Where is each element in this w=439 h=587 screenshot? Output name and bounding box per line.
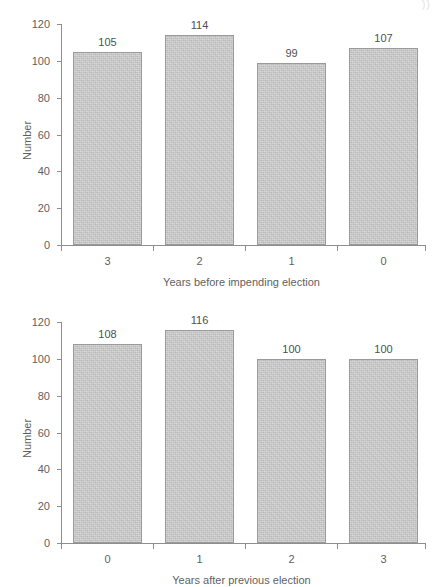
x-tick-label-top-3: 0 <box>349 256 418 267</box>
x-tick-label-top-2: 1 <box>257 256 326 267</box>
y-tick-label-bottom-0: 0 <box>16 538 50 549</box>
x-tick-bottom-0 <box>61 544 62 549</box>
x-axis-line-top <box>61 245 426 246</box>
y-tick-top-120 <box>57 24 62 25</box>
y-axis-title-bottom: Number <box>21 419 33 458</box>
x-tick-top-0 <box>61 246 62 251</box>
bar-value-bottom-1: 116 <box>165 315 234 326</box>
y-tick-bottom-120 <box>57 322 62 323</box>
bar-value-bottom-2: 100 <box>257 344 326 355</box>
y-tick-bottom-80 <box>57 396 62 397</box>
x-tick-label-bottom-3: 3 <box>349 554 418 565</box>
y-tick-label-bottom-120: 120 <box>16 317 50 328</box>
y-tick-bottom-100 <box>57 359 62 360</box>
y-tick-label-bottom-20: 20 <box>16 501 50 512</box>
x-tick-top-4 <box>425 246 426 251</box>
y-tick-label-top-20: 20 <box>16 203 50 214</box>
bar-bottom-2[interactable] <box>257 359 326 543</box>
x-axis-title-top: Years before impending election <box>0 276 439 288</box>
x-tick-label-top-0: 3 <box>73 256 142 267</box>
plot-area-bottom: 0 20 40 60 80 100 120 108 116 100 100 0 … <box>0 300 439 587</box>
plot-area-top: 0 20 40 60 80 100 120 105 114 99 107 3 2… <box>0 0 439 300</box>
y-tick-bottom-40 <box>57 469 62 470</box>
bar-bottom-3[interactable] <box>349 359 418 543</box>
y-axis-title-top: Number <box>21 121 33 160</box>
x-tick-label-bottom-0: 0 <box>73 554 142 565</box>
x-tick-bottom-4 <box>425 544 426 549</box>
x-tick-label-bottom-2: 2 <box>257 554 326 565</box>
bar-value-top-3: 107 <box>349 33 418 44</box>
y-tick-bottom-20 <box>57 506 62 507</box>
y-tick-top-60 <box>57 135 62 136</box>
bar-value-top-2: 99 <box>257 48 326 59</box>
y-tick-label-top-80: 80 <box>16 93 50 104</box>
bar-value-top-1: 114 <box>165 20 234 31</box>
x-tick-top-3 <box>337 246 338 251</box>
x-tick-top-2 <box>245 246 246 251</box>
bar-top-3[interactable] <box>349 48 418 245</box>
y-tick-top-40 <box>57 171 62 172</box>
x-tick-label-top-1: 2 <box>165 256 234 267</box>
y-tick-label-bottom-40: 40 <box>16 464 50 475</box>
y-tick-bottom-60 <box>57 433 62 434</box>
y-tick-label-bottom-80: 80 <box>16 391 50 402</box>
y-tick-label-top-100: 100 <box>16 56 50 67</box>
bar-top-2[interactable] <box>257 63 326 245</box>
bar-value-bottom-3: 100 <box>349 344 418 355</box>
x-axis-title-bottom: Years after previous election <box>0 574 439 586</box>
y-tick-label-top-0: 0 <box>16 240 50 251</box>
y-tick-top-20 <box>57 208 62 209</box>
bar-bottom-0[interactable] <box>73 344 142 543</box>
y-tick-label-bottom-100: 100 <box>16 354 50 365</box>
bar-top-0[interactable] <box>73 52 142 245</box>
x-tick-label-bottom-1: 1 <box>165 554 234 565</box>
bar-bottom-1[interactable] <box>165 330 234 543</box>
y-tick-top-80 <box>57 98 62 99</box>
x-tick-top-1 <box>153 246 154 251</box>
x-tick-bottom-1 <box>153 544 154 549</box>
bar-chart-years-after-election: 0 20 40 60 80 100 120 108 116 100 100 0 … <box>0 300 439 587</box>
bar-chart-years-before-election: 0 20 40 60 80 100 120 105 114 99 107 3 2… <box>0 0 439 300</box>
bar-top-1[interactable] <box>165 35 234 245</box>
bar-value-top-0: 105 <box>73 37 142 48</box>
y-tick-top-100 <box>57 61 62 62</box>
x-axis-line-bottom <box>61 543 426 544</box>
x-tick-bottom-3 <box>337 544 338 549</box>
y-tick-label-top-120: 120 <box>16 19 50 30</box>
y-tick-label-top-40: 40 <box>16 166 50 177</box>
bar-value-bottom-0: 108 <box>73 329 142 340</box>
x-tick-bottom-2 <box>245 544 246 549</box>
